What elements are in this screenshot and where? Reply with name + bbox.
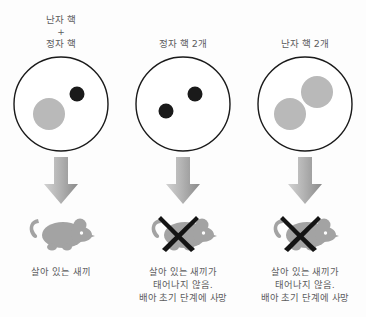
down-arrow-icon [41,157,81,205]
caption-line: 살아 있는 새끼가 [261,265,350,278]
down-arrow-icon [285,157,325,205]
caption-line: 배아 초기 단계에 사망 [139,291,228,304]
cross-out-icon [269,206,341,256]
outcome-mouse [147,206,219,256]
cell-membrane-icon [258,57,352,151]
paternal-nucleus-icon [188,87,203,102]
maternal-nucleus-icon [301,76,333,108]
diagram-board: 난자 핵 + 정자 핵 [0,0,366,317]
diagram-column-two-maternal: 난자 핵 2개 [244,0,366,304]
column-header: 난자 핵 + 정자 핵 [46,0,76,52]
zygote-cell [133,54,233,154]
column-header: 난자 핵 2개 [281,0,328,52]
outcome-mouse [269,206,341,256]
maternal-nucleus-icon [274,98,306,130]
caption-line: 살아 있는 새끼 [31,265,90,278]
caption-line: 태어나지 않음. [139,278,228,291]
outcome-mouse [25,206,97,256]
outcome-caption: 살아 있는 새끼가 태어나지 않음. 배아 초기 단계에 사망 [139,265,228,304]
column-header: 정자 핵 2개 [159,0,206,52]
outcome-caption: 살아 있는 새끼 [31,265,90,278]
diagram-column-two-paternal: 정자 핵 2개 [122,0,244,304]
paternal-nucleus-icon [70,87,85,102]
mouse-eye-icon [80,231,83,234]
zygote-cell [255,54,355,154]
column-header-line: 정자 핵 2개 [159,38,206,51]
paternal-nucleus-icon [159,104,174,119]
down-arrow-icon [163,157,203,205]
outcome-caption: 살아 있는 새끼가 태어나지 않음. 배아 초기 단계에 사망 [261,265,350,304]
zygote-cell [11,54,111,154]
cell-membrane-icon [136,57,230,151]
caption-line: 배아 초기 단계에 사망 [261,291,350,304]
caption-line: 살아 있는 새끼가 [139,265,228,278]
maternal-nucleus-icon [33,98,65,130]
mouse-icon [25,206,97,256]
column-header-line: 난자 핵 2개 [281,38,328,51]
cross-out-icon [147,206,219,256]
column-header-line: 난자 핵 [46,14,76,27]
column-header-line: 정자 핵 [46,38,76,51]
caption-line: 태어나지 않음. [261,278,350,291]
column-header-plus: + [57,27,64,38]
diagram-column-maternal-plus-paternal: 난자 핵 + 정자 핵 [0,0,122,278]
